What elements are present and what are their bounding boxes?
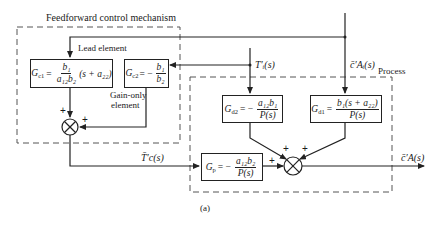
gc2-denominator: b₂ bbox=[156, 74, 166, 85]
block-gd1[interactable]: Gd1 = b₁(s + a₂₂)P(s) bbox=[310, 95, 382, 123]
signal-output-label: c̄′A(s) bbox=[401, 152, 424, 163]
gp-fraction: a₁₂b₂P(s) bbox=[235, 156, 256, 179]
gd2-denominator: P(s) bbox=[259, 110, 277, 121]
block-gd2[interactable]: Gd2 = − a₁₂b₁P(s) bbox=[222, 95, 283, 123]
gp-equals: = − bbox=[218, 162, 231, 172]
feedforward-group-label: Feedforward control mechanism bbox=[46, 12, 176, 23]
gain-only-element-label: Gain-only element bbox=[110, 90, 147, 110]
gc2-fraction: b₁b₂ bbox=[156, 62, 166, 85]
gc1-subscript: c1 bbox=[38, 72, 44, 79]
lead-element-label: Lead element bbox=[78, 43, 127, 53]
gd1-subscript: d1 bbox=[318, 108, 325, 115]
gd1-denominator: P(s) bbox=[348, 110, 366, 121]
gp-subscript: p bbox=[213, 166, 216, 173]
gp-numerator: a₁₂b₂ bbox=[235, 156, 256, 168]
signal-tc-label: T̄′c(s) bbox=[141, 152, 164, 163]
gain-only-line1: Gain-only bbox=[110, 90, 147, 100]
sum2-sign-upper-right: + bbox=[302, 143, 308, 154]
gd2-fraction: a₁₂b₁P(s) bbox=[257, 98, 278, 121]
block-gc2-gain-element[interactable]: Gc2 = − b₁b₂ bbox=[124, 59, 169, 88]
gc2-subscript: c2 bbox=[132, 72, 138, 79]
gd2-equals: = − bbox=[240, 104, 253, 114]
gp-denominator: P(s) bbox=[237, 168, 255, 179]
gc2-equals: = − bbox=[139, 69, 152, 79]
signal-ca-label: c̄′Aᵢ(s) bbox=[350, 59, 375, 70]
signal-tl-label: T′ᵢ(s) bbox=[255, 59, 275, 70]
gc1-numerator: b₁ bbox=[61, 62, 71, 74]
gc2-numerator: b₁ bbox=[156, 62, 166, 74]
sum2-sign-left: + bbox=[269, 155, 275, 166]
gc1-denominator: a₁₂b₂ bbox=[56, 74, 77, 85]
gc1-fraction: b₁a₁₂b₂ bbox=[56, 62, 77, 85]
gain-only-line2: element bbox=[110, 100, 147, 110]
figure-caption: (a) bbox=[200, 203, 210, 213]
block-gp[interactable]: Gp = − a₁₂b₂P(s) bbox=[201, 153, 263, 181]
gd2-subscript: d2 bbox=[231, 108, 238, 115]
sum2-sign-upper-left: + bbox=[283, 143, 289, 154]
gd1-equals: = bbox=[327, 104, 332, 114]
gc1-tail: (s + a₂₂) bbox=[79, 69, 112, 79]
gd1-fraction: b₁(s + a₂₂)P(s) bbox=[336, 98, 379, 121]
gd2-numerator: a₁₂b₁ bbox=[257, 98, 278, 110]
gd1-numerator: b₁(s + a₂₂) bbox=[336, 98, 379, 110]
sum1-sign-right: + bbox=[82, 114, 88, 125]
gp-symbol: G bbox=[206, 162, 213, 172]
block-gc1-lead-element[interactable]: Gc1 = b₁a₁₂b₂ (s + a₂₂) bbox=[30, 59, 113, 88]
process-group-label: Process bbox=[378, 66, 406, 76]
sum1-sign-top: + bbox=[60, 105, 66, 116]
gc1-equals: = bbox=[46, 69, 51, 79]
